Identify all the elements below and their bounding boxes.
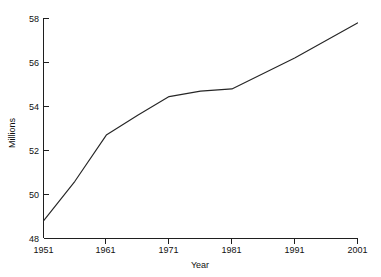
y-tick-label-52: 52 [29, 146, 39, 156]
x-axis-title: Year [191, 260, 209, 270]
x-tick-label-1981: 1981 [221, 245, 241, 255]
y-tick-label-56: 56 [29, 58, 39, 68]
y-tick-label-50: 50 [29, 190, 39, 200]
x-tick-label-1971: 1971 [158, 245, 178, 255]
chart-plot-area: 58 56 54 52 50 48 1951 1961 1971 1981 19… [0, 0, 381, 277]
line-chart-figure: 58 56 54 52 50 48 1951 1961 1971 1981 19… [0, 0, 381, 277]
y-tick-label-58: 58 [29, 14, 39, 24]
x-tick-label-2001: 2001 [347, 245, 367, 255]
x-tick-label-1951: 1951 [33, 245, 53, 255]
y-axis-title: Millions [7, 118, 17, 149]
x-tick-label-1991: 1991 [284, 245, 304, 255]
population-series-line [44, 23, 358, 221]
y-tick-label-54: 54 [29, 102, 39, 112]
x-tick-label-1961: 1961 [95, 245, 115, 255]
y-tick-label-48: 48 [29, 234, 39, 244]
